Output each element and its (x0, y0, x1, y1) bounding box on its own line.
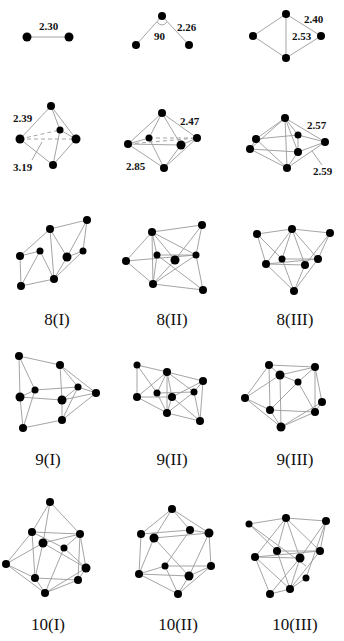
bond-length-label: 2.85 (126, 160, 146, 172)
isomer-caption: 10(I) (31, 615, 65, 634)
cluster-n6: 2.47 2.85 (124, 109, 201, 172)
cluster-9-I: 9(I) (15, 352, 100, 469)
isomer-caption: 10(III) (272, 615, 317, 634)
bond-length-label: 3.19 (13, 161, 33, 173)
bond-length-label: 2.47 (180, 115, 200, 127)
isomer-caption: 8(III) (277, 310, 314, 329)
bond-length-label: 2.53 (292, 30, 312, 42)
bond-length-label: 2.59 (313, 165, 333, 177)
bond-length-label: 2.57 (307, 119, 327, 131)
cluster-n5: 2.39 3.19 (13, 102, 81, 173)
cluster-8-III: 8(III) (253, 225, 334, 329)
bond-length-label: 2.39 (13, 112, 33, 124)
cluster-trimer: 90 2.26 (132, 12, 197, 49)
bond-length-label: 2.40 (304, 13, 324, 25)
isomer-caption: 10(II) (158, 615, 198, 634)
cluster-10-I: 10(I) (2, 498, 91, 634)
cluster-dimer: 2.30 (23, 20, 74, 42)
cluster-9-II: 9(II) (133, 362, 207, 470)
isomer-caption: 9(III) (277, 450, 314, 469)
bond-length-label: 2.30 (39, 20, 59, 32)
bond-angle-label: 90 (154, 30, 166, 42)
isomer-caption: 9(I) (35, 450, 60, 469)
isomer-caption: 8(II) (156, 310, 187, 329)
isomer-caption: 8(I) (44, 310, 69, 329)
cluster-8-II: 8(II) (122, 221, 207, 329)
cluster-tetramer: 2.40 2.53 (249, 10, 325, 62)
cluster-n7: 2.57 2.59 (246, 114, 333, 177)
bond-length-label: 2.26 (177, 21, 197, 33)
cluster-10-III: 10(III) (246, 514, 331, 634)
cluster-9-III: 9(III) (241, 361, 326, 469)
cluster-8-I: 8(I) (16, 216, 91, 329)
cluster-figure: 2.30 90 2.26 2.40 2.53 (0, 0, 344, 641)
isomer-caption: 9(II) (156, 450, 187, 469)
cluster-10-II: 10(II) (135, 505, 215, 634)
